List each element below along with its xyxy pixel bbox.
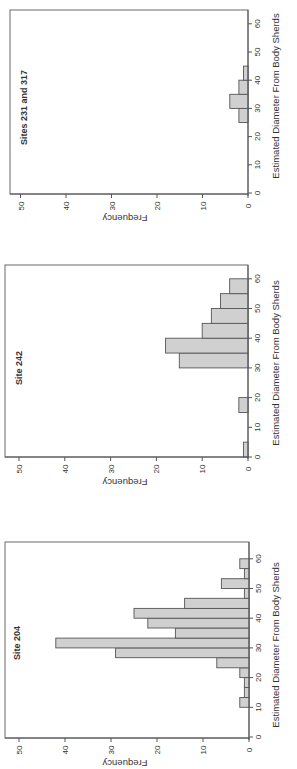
frequency-tick-label: 50 (17, 201, 26, 210)
histogram-bars (56, 559, 249, 708)
diameter-tick-label: 10 (254, 702, 263, 711)
frequency-axis: 01020304050 (10, 194, 253, 210)
histogram-bar (211, 309, 248, 324)
histogram-bar (134, 608, 249, 618)
histogram-bar (230, 279, 248, 294)
panel-title: Site 242 (14, 351, 24, 385)
histogram-bar (148, 618, 249, 628)
y-axis-label: Frequency (102, 213, 147, 224)
diameter-tick-label: 0 (253, 190, 262, 195)
frequency-tick-label: 0 (244, 466, 253, 471)
histogram-bar (240, 559, 249, 569)
frequency-tick-label: 20 (152, 464, 161, 473)
histogram-bars (166, 279, 248, 457)
histogram-bar (244, 569, 249, 579)
histogram-bar (244, 687, 249, 697)
histogram-panel-site-204: 0102030405060 01020304050 Site 204 Estim… (5, 542, 281, 769)
plot-frame (10, 10, 248, 194)
histogram-bar (243, 66, 248, 80)
diameter-tick-label: 30 (253, 103, 262, 112)
histogram-bar (56, 638, 249, 648)
y-axis-label: Frequency (102, 758, 147, 769)
histogram-bar (185, 598, 249, 608)
frequency-tick-label: 40 (61, 745, 70, 754)
diameter-axis: 0102030405060 (248, 10, 262, 196)
diameter-axis: 0102030405060 (248, 265, 262, 459)
frequency-tick-label: 30 (108, 201, 117, 210)
histogram-bar (239, 398, 248, 413)
diameter-tick-label: 50 (254, 584, 263, 593)
histogram-bar (243, 442, 248, 457)
diameter-tick-label: 0 (253, 454, 262, 459)
diameter-tick-label: 10 (253, 422, 262, 431)
x-axis-label: Estimated Diameter From Body Sherds (270, 562, 281, 728)
histogram-figure: 0102030405060 01020304050 Sites 231 and … (0, 0, 297, 769)
frequency-tick-label: 30 (107, 464, 116, 473)
histogram-bar (217, 658, 249, 668)
diameter-tick-label: 0 (254, 734, 263, 739)
diameter-tick-label: 40 (253, 333, 262, 342)
histogram-bar (116, 648, 249, 658)
histogram-bar (240, 697, 249, 707)
frequency-tick-label: 0 (245, 747, 254, 752)
histogram-bar (221, 294, 248, 309)
x-axis-label: Estimated Diameter From Body Sherds (270, 280, 281, 446)
diameter-tick-label: 20 (253, 393, 262, 402)
histogram-bar (166, 338, 248, 353)
histogram-bar (239, 108, 248, 122)
frequency-tick-label: 10 (198, 464, 207, 473)
frequency-tick-label: 0 (244, 203, 253, 208)
diameter-tick-label: 30 (254, 643, 263, 652)
diameter-tick-label: 20 (253, 132, 262, 141)
diameter-tick-label: 60 (254, 554, 263, 563)
frequency-tick-label: 10 (199, 745, 208, 754)
panel-title: Site 204 (12, 626, 22, 660)
diameter-tick-label: 30 (253, 363, 262, 372)
diameter-tick-label: 10 (253, 160, 262, 169)
frequency-axis: 01020304050 (5, 738, 254, 754)
frequency-tick-label: 50 (15, 745, 24, 754)
histogram-bar (230, 94, 248, 108)
diameter-tick-label: 40 (254, 613, 263, 622)
diameter-axis: 0102030405060 (249, 542, 263, 740)
frequency-tick-label: 10 (199, 201, 208, 210)
frequency-tick-label: 40 (62, 201, 71, 210)
histogram-bars (230, 66, 248, 122)
frequency-tick-label: 40 (61, 464, 70, 473)
x-axis-label: Estimated Diameter From Body Sherds (270, 13, 281, 179)
y-axis-label: Frequency (102, 477, 147, 488)
frequency-tick-label: 30 (107, 745, 116, 754)
histogram-bar (175, 628, 249, 638)
diameter-tick-label: 60 (253, 19, 262, 28)
histogram-bar (179, 353, 248, 368)
histogram-bar (221, 579, 249, 589)
histogram-panel-sites-231-317: 0102030405060 01020304050 Sites 231 and … (10, 10, 281, 224)
diameter-tick-label: 20 (254, 673, 263, 682)
frequency-axis: 01020304050 (5, 457, 253, 473)
diameter-tick-label: 50 (253, 304, 262, 313)
frequency-tick-label: 20 (153, 745, 162, 754)
histogram-bar (202, 323, 248, 338)
frequency-tick-label: 50 (15, 464, 24, 473)
histogram-bar (244, 589, 249, 599)
histogram-bar (239, 80, 248, 94)
diameter-tick-label: 50 (253, 47, 262, 56)
diameter-tick-label: 40 (253, 75, 262, 84)
panel-title: Sites 231 and 317 (19, 70, 29, 145)
histogram-bar (244, 678, 249, 688)
diameter-tick-label: 60 (253, 274, 262, 283)
histogram-panel-site-242: 0102030405060 01020304050 Site 242 Estim… (5, 265, 281, 488)
frequency-tick-label: 20 (153, 201, 162, 210)
histogram-bar (240, 668, 249, 678)
